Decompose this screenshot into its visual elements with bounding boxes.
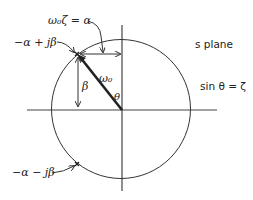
plane-label: s plane <box>195 38 233 50</box>
upper-pole-leader <box>57 42 74 52</box>
relation-label: sin θ = ζ <box>200 80 246 92</box>
lower-pole-label: −α − jβ <box>12 166 55 179</box>
theta-label: θ <box>114 91 120 102</box>
lower-pole-leader <box>52 166 74 173</box>
diagram-canvas: ω₀ζ = α −α + jβ −α − jβ ω₀ β θ s plane s… <box>0 0 253 200</box>
alpha-relation-label: ω₀ζ = α <box>48 14 92 27</box>
upper-pole-label: −α + jβ <box>14 36 57 49</box>
radius-label: ω₀ <box>99 72 113 85</box>
beta-label: β <box>81 80 88 93</box>
s-plane-diagram: ω₀ζ = α −α + jβ −α − jβ ω₀ β θ s plane s… <box>0 0 253 200</box>
